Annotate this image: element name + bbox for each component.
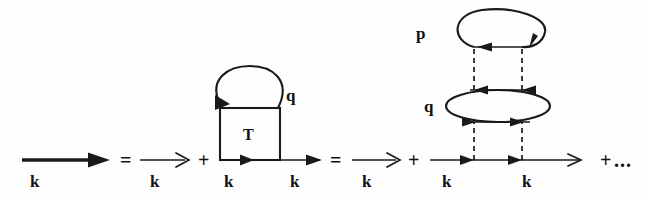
dressed-propagator-arrowhead (88, 153, 110, 168)
t-matrix-q-loop (216, 66, 282, 108)
plus-sign-2: + (408, 149, 419, 171)
free-propagator-term-1: k (140, 153, 189, 191)
t-matrix-term: T q k k (215, 66, 322, 191)
momentum-label-k-3: k (224, 172, 234, 191)
momentum-label-k-4: k (290, 172, 300, 191)
plus-sign-1: + (198, 149, 209, 171)
momentum-label-q-1: q (286, 86, 296, 105)
momentum-label-q-2: q (424, 97, 434, 116)
t-matrix-vertex-label: T (243, 126, 254, 143)
momentum-label-k-7: k (522, 172, 532, 191)
ladder-baseline-arrowhead-1 (460, 155, 474, 165)
momentum-label-p-1: p (416, 24, 425, 43)
ladder-term: q p k k (416, 9, 581, 191)
feynman-diagram-figure: k = k + T q k k (0, 0, 648, 197)
trailing-ellipsis: ... (614, 149, 632, 171)
ladder-q-loop-arrowhead-top-left (474, 86, 488, 95)
momentum-label-k-6: k (442, 172, 452, 191)
dressed-propagator-term: k (22, 153, 110, 192)
ladder-q-loop-arrowhead-bottom-right (510, 118, 524, 127)
diagram-canvas: k = k + T q k k (0, 0, 648, 197)
ladder-baseline-arrowhead-2 (508, 155, 522, 165)
momentum-label-k-5: k (362, 172, 372, 191)
plus-sign-3: + (600, 149, 611, 171)
t-matrix-outgoing-arrowhead (306, 155, 322, 166)
momentum-label-k-2: k (150, 172, 160, 191)
equals-sign-2: = (330, 149, 341, 171)
free-propagator-term-2: k (352, 153, 400, 191)
equals-sign-1: = (120, 149, 131, 171)
momentum-label-k-1: k (30, 172, 40, 191)
ladder-q-loop (446, 90, 550, 122)
ladder-p-loop-arrowhead-left (477, 43, 492, 52)
